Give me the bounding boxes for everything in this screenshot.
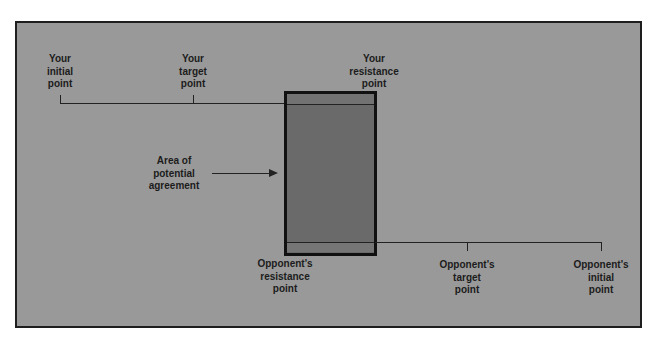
opponent-target-point-label: Opponent's target point: [432, 259, 502, 297]
zopa-arrow-line: [212, 173, 270, 174]
your-initial-tick: [60, 95, 61, 104]
your-target-point-label: Your target point: [166, 53, 220, 91]
opponent-initial-point-label: Opponent's initial point: [566, 259, 636, 297]
opponent-target-tick: [467, 242, 468, 251]
your-initial-point-label: Your initial point: [33, 53, 87, 91]
opponent-initial-tick: [601, 242, 602, 251]
zopa-bottom-strip: [287, 242, 374, 252]
arrow-right-icon: [269, 169, 278, 177]
zopa-box: [284, 91, 377, 256]
your-resistance-point-label: Your resistance point: [339, 53, 409, 91]
opponent-range-line: [375, 242, 602, 243]
your-target-tick: [193, 95, 194, 104]
opponent-resistance-point-label: Opponent's resistance point: [250, 258, 320, 296]
zopa-label: Area of potential agreement: [142, 155, 206, 193]
zopa-top-strip: [287, 94, 374, 105]
